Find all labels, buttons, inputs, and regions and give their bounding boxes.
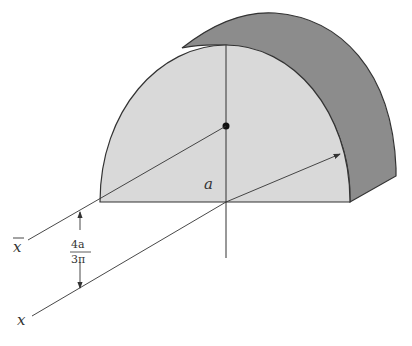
base-axis-label: x (17, 311, 26, 329)
radius-label: a (204, 175, 213, 193)
fraction-denominator: 3π (71, 253, 85, 266)
centroid-axis-label: x (13, 238, 22, 256)
base-axis-line (32, 202, 226, 316)
half-cylinder-diagram: a x x 4a 3π (0, 0, 412, 346)
fraction-numerator: 4a (71, 238, 85, 251)
